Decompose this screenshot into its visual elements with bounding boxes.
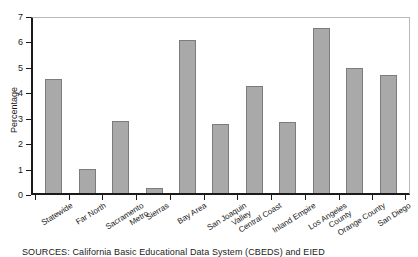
bar[interactable] [79, 169, 96, 193]
y-tick-label: 6 [18, 38, 23, 47]
source-text: California Basic Educational Data System… [72, 247, 324, 257]
bar-slot [305, 18, 338, 193]
bar-slot [338, 18, 371, 193]
y-tick-label: 2 [18, 140, 23, 149]
x-label-slot: San JoaquinValley [204, 200, 238, 248]
x-axis-label: Sierras [144, 201, 170, 222]
x-label-slot: Orange County [339, 200, 373, 248]
x-label-slot: Far North [69, 200, 103, 248]
x-label-slot: Bay Area [170, 200, 204, 248]
bar-series [33, 18, 409, 193]
y-tick-label: 1 [18, 165, 23, 174]
x-label-slot: Statewide [35, 200, 69, 248]
x-label-slot: Inland Empire [271, 200, 305, 248]
x-label-slot: SacramentoMetro [102, 200, 136, 248]
x-label-slot: San Diego [372, 200, 406, 248]
bar-slot [137, 18, 170, 193]
bar-slot [70, 18, 103, 193]
bar-slot [104, 18, 137, 193]
bar[interactable] [279, 122, 296, 193]
bar-slot [204, 18, 237, 193]
plot-area [31, 17, 410, 195]
bar[interactable] [346, 68, 363, 193]
bar-slot [238, 18, 271, 193]
bar[interactable] [45, 79, 62, 193]
y-tick-label: 3 [18, 114, 23, 123]
y-tick-label: 4 [18, 89, 23, 98]
x-axis-label-line1: San Diego [376, 201, 412, 228]
x-label-slot: Central Coast [237, 200, 271, 248]
x-label-slot: Los AngelesCounty [305, 200, 339, 248]
bar-slot [271, 18, 304, 193]
x-label-slot: Sierras [136, 200, 170, 248]
bar-slot [37, 18, 70, 193]
source-label: SOURCES: [22, 247, 70, 257]
bar[interactable] [146, 188, 163, 193]
bar-slot [372, 18, 405, 193]
bar[interactable] [313, 28, 330, 193]
y-axis: Percentage 01234567 [0, 17, 31, 195]
bar[interactable] [179, 40, 196, 193]
y-tick-label: 5 [18, 63, 23, 72]
source-caption: SOURCES: California Basic Educational Da… [22, 247, 325, 257]
bar[interactable] [112, 121, 129, 193]
bar[interactable] [246, 86, 263, 193]
bar[interactable] [212, 124, 229, 193]
x-axis-label: San Diego [376, 201, 412, 228]
x-axis-label-line1: Sierras [144, 201, 170, 222]
bar[interactable] [380, 75, 397, 193]
x-axis-labels: StatewideFar NorthSacramentoMetroSierras… [31, 200, 410, 248]
bar-chart-figure: Percentage 01234567 StatewideFar NorthSa… [0, 0, 418, 257]
y-tick-label: 7 [18, 13, 23, 22]
bar-slot [171, 18, 204, 193]
y-tick-label: 0 [18, 191, 23, 200]
